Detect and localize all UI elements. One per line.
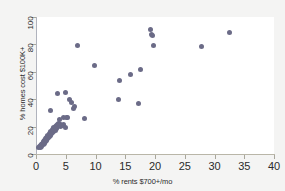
data-point	[117, 78, 122, 83]
data-point	[72, 104, 77, 109]
data-point	[150, 33, 155, 38]
x-tick-mark	[36, 155, 37, 159]
data-point	[151, 43, 156, 48]
data-point	[55, 91, 60, 96]
y-axis-line	[36, 17, 37, 155]
x-tick-label: 15	[110, 160, 140, 172]
x-tick-mark	[96, 155, 97, 159]
x-tick-label: 40	[259, 160, 285, 172]
data-point	[63, 90, 68, 95]
x-tick-label: 30	[200, 160, 230, 172]
y-tick-label: 80	[26, 44, 35, 74]
x-tick-mark	[125, 155, 126, 159]
data-point	[199, 44, 204, 49]
data-point	[227, 30, 232, 35]
data-point	[136, 101, 141, 106]
data-point	[48, 108, 53, 113]
plot-panel	[36, 17, 274, 154]
x-tick-mark	[274, 155, 275, 159]
y-axis-title: % homes cost $100K+	[18, 14, 27, 154]
x-tick-mark	[155, 155, 156, 159]
x-tick-mark	[244, 155, 245, 159]
x-tick-label: 35	[229, 160, 259, 172]
x-tick-label: 10	[81, 160, 111, 172]
x-tick-mark	[215, 155, 216, 159]
x-tick-label: 5	[51, 160, 81, 172]
y-tick-label: 20	[26, 126, 35, 156]
data-point	[65, 115, 70, 120]
data-point	[63, 125, 68, 130]
x-tick-label: 20	[140, 160, 170, 172]
scatter-plot-figure: 0510152025303540 020406080100 % rents $7…	[0, 0, 285, 191]
y-tick-label: 100	[26, 17, 35, 47]
x-tick-mark	[185, 155, 186, 159]
x-tick-mark	[66, 155, 67, 159]
y-tick-label: 40	[26, 99, 35, 129]
data-point	[75, 43, 80, 48]
y-tick-label: 60	[26, 71, 35, 101]
x-axis-title: % rents $700+/mo	[0, 177, 285, 186]
data-point	[82, 116, 87, 121]
x-tick-label: 25	[170, 160, 200, 172]
